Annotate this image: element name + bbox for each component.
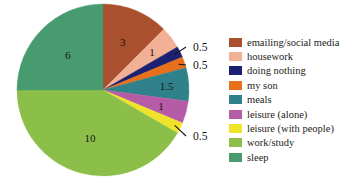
legend-item-label: emailing/social media (247, 37, 339, 48)
legend-color-swatch (229, 138, 242, 147)
legend-item-label: leisure (with people) (247, 123, 334, 134)
legend-item-label: housework (247, 51, 293, 62)
legend-item[interactable]: housework (229, 49, 356, 63)
legend-color-swatch (229, 110, 242, 119)
legend-color-swatch (229, 124, 242, 133)
legend-color-swatch (229, 95, 242, 104)
legend-color-swatch (229, 52, 242, 61)
slice-value-label: 3 (120, 36, 126, 48)
pie-slice[interactable] (17, 4, 103, 90)
pie-chart-figure: 311.511060.50.50.5 emailing/social media… (0, 0, 356, 190)
slice-value-callout: 0.5 (193, 41, 208, 53)
legend-color-swatch (229, 153, 242, 162)
callout-leader-line (179, 64, 186, 65)
legend-item[interactable]: emailing/social media (229, 35, 356, 49)
legend-item[interactable]: my son (229, 78, 356, 92)
legend-item-label: meals (247, 94, 272, 105)
legend-item-label: my son (247, 80, 278, 91)
pie-svg: 311.511060.50.50.5 (0, 0, 230, 190)
slice-value-label: 6 (65, 49, 71, 61)
chart-legend: emailing/social mediahouseworkdoing noth… (229, 35, 356, 165)
legend-item-label: sleep (247, 152, 269, 163)
legend-color-swatch (229, 38, 242, 47)
slice-value-label: 1.5 (160, 80, 174, 92)
slice-value-callout: 0.5 (193, 130, 208, 142)
legend-item-label: leisure (alone) (247, 109, 307, 120)
slice-value-callout: 0.5 (193, 59, 208, 71)
legend-item[interactable]: sleep (229, 150, 356, 164)
slice-value-label: 10 (85, 132, 97, 144)
legend-item[interactable]: leisure (alone) (229, 107, 356, 121)
legend-item-label: work/study (247, 137, 294, 148)
pie-plot-area: 311.511060.50.50.5 (0, 0, 230, 190)
legend-color-swatch (229, 66, 242, 75)
legend-item[interactable]: meals (229, 93, 356, 107)
legend-color-swatch (229, 81, 242, 90)
legend-item-label: doing nothing (247, 65, 306, 76)
legend-item[interactable]: doing nothing (229, 64, 356, 78)
legend-item[interactable]: work/study (229, 136, 356, 150)
slice-value-label: 1 (158, 100, 164, 112)
legend-item[interactable]: leisure (with people) (229, 121, 356, 135)
slice-value-label: 1 (149, 46, 155, 58)
